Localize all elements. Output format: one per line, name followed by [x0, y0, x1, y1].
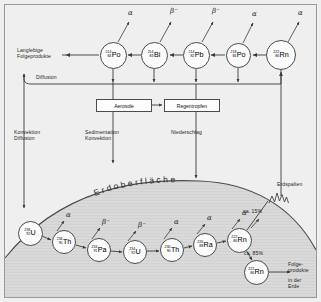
emission-rn222: α: [298, 10, 303, 16]
emission-ra226: α: [207, 215, 212, 221]
emission-pa234: β⁻: [102, 219, 110, 225]
process-box-aerosole[interactable]: Aerosole: [96, 99, 152, 112]
process-box-regentropfen[interactable]: Regentropfen: [164, 99, 220, 112]
process-box-label: Aerosole: [114, 103, 134, 109]
emission-bi214: β⁻: [170, 8, 178, 14]
emission-th230: α: [174, 219, 179, 225]
emission-rn222g: α: [242, 210, 247, 216]
diagram-canvas: 21484Po21483Bi21482Pb21884Po22286Rn23892…: [0, 0, 321, 302]
process-box-label: Regentropfen: [177, 103, 207, 109]
label-erdoberflaeche: Erdoberfläche: [92, 174, 177, 198]
emission-pb214: β⁻: [212, 8, 220, 14]
emission-po218: α: [252, 11, 257, 17]
emission-u234: β⁻: [138, 222, 146, 228]
surface-text-layer: Erdoberfläche: [0, 0, 321, 302]
emission-th234: α: [66, 212, 71, 218]
emission-po214: α: [128, 10, 133, 16]
